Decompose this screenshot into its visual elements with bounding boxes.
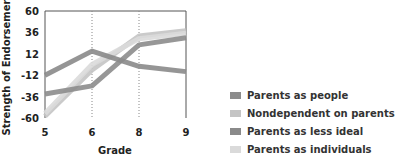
y-tick-label: 36 — [25, 27, 39, 38]
legend-swatch — [230, 92, 241, 99]
legend: Parents as peopleNondependent on parents… — [230, 86, 395, 158]
series-line-parents-as-individuals — [45, 33, 186, 113]
legend-item: Parents as less ideal — [230, 122, 395, 140]
legend-swatch — [230, 146, 241, 153]
legend-label: Parents as less ideal — [247, 126, 363, 137]
y-tick-label: -60 — [21, 113, 39, 124]
legend-item: Nondependent on parents — [230, 104, 395, 122]
y-tick-label: 60 — [25, 6, 39, 17]
legend-swatch — [230, 110, 241, 117]
legend-item: Parents as people — [230, 86, 395, 104]
x-tick-label: 9 — [183, 127, 190, 138]
x-axis-title: Grade — [98, 145, 132, 156]
legend-swatch — [230, 128, 241, 135]
y-axis-title: Strength of Endorsement — [1, 0, 12, 135]
legend-item: Parents as individuals — [230, 140, 395, 158]
x-tick-label: 5 — [42, 127, 49, 138]
x-tick-label: 8 — [136, 127, 143, 138]
legend-label: Nondependent on parents — [247, 108, 395, 119]
legend-label: Parents as people — [247, 90, 348, 101]
legend-label: Parents as individuals — [247, 144, 372, 155]
y-tick-label: -12 — [21, 70, 39, 81]
y-tick-label: -36 — [21, 92, 39, 103]
x-tick-label: 6 — [89, 127, 96, 138]
y-tick-label: 12 — [25, 49, 39, 60]
